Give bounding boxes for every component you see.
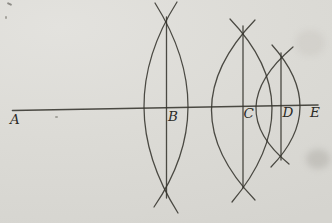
point-label-A: A: [8, 111, 20, 127]
geometry-diagram: ABCDE: [0, 0, 332, 223]
point-label-B: B: [167, 108, 178, 124]
point-label-D: D: [282, 104, 294, 120]
scanned-geometry-figure: ABCDE: [0, 0, 332, 223]
point-label-E: E: [309, 104, 320, 120]
point-label-C: C: [244, 105, 255, 121]
